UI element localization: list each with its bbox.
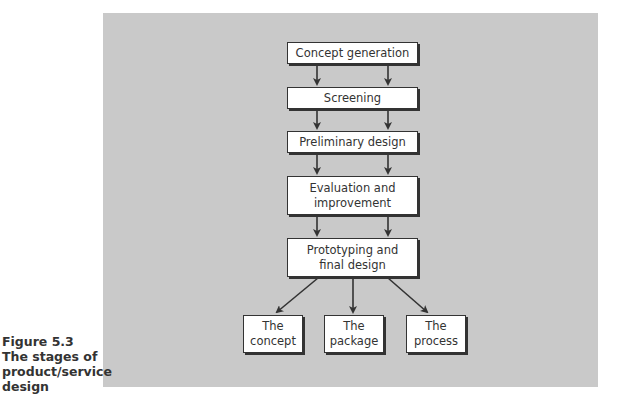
stage-label: Prototyping and [307, 243, 398, 258]
stage-concept-generation: Concept generation [287, 42, 418, 64]
stage-evaluation-improvement: Evaluation and improvement [287, 176, 418, 215]
stage-prototyping-final-design: Prototyping and final design [287, 238, 418, 277]
stage-label: Screening [324, 91, 381, 106]
output-package: The package [324, 315, 384, 353]
stage-screening: Screening [287, 87, 418, 109]
stage-preliminary-design: Preliminary design [287, 131, 418, 153]
output-process: The process [406, 315, 466, 353]
stage-label: Preliminary design [299, 135, 406, 150]
arrow-icon [388, 278, 427, 312]
stage-label: Concept generation [296, 46, 410, 61]
output-label: package [330, 334, 379, 349]
output-label: The [425, 319, 446, 334]
stage-label: improvement [314, 196, 391, 211]
arrow-icon [277, 278, 318, 312]
output-label: The [343, 319, 364, 334]
stage-label: Evaluation and [310, 181, 396, 196]
output-concept: The concept [243, 315, 303, 353]
output-label: concept [250, 334, 296, 349]
output-label: The [262, 319, 283, 334]
stage-label: final design [319, 258, 386, 273]
output-label: process [414, 334, 458, 349]
